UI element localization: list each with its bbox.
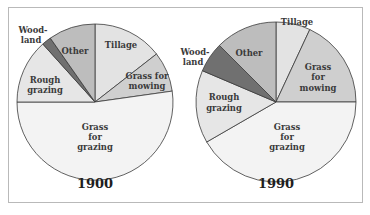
label-grazing-1900-l2: for xyxy=(88,132,102,142)
label-woodland-1900-l2: land xyxy=(21,35,42,45)
label-woodland-1990-l1: Wood- xyxy=(179,47,210,57)
label-tillage-1990: Tillage xyxy=(281,17,313,27)
pie-1900 xyxy=(17,24,173,180)
label-other-1990: Other xyxy=(236,48,264,58)
label-grazing-1990-l2: for xyxy=(280,132,294,142)
label-mowing-1900-l2: mowing xyxy=(129,81,166,91)
label-grazing-1990-l1: Grass xyxy=(274,122,301,132)
label-grazing-1900-l3: grazing xyxy=(77,142,113,152)
label-rough-1990-l2: grazing xyxy=(206,103,242,113)
label-rough-1900-l1: Rough xyxy=(30,75,61,85)
label-grazing-1990-l3: grazing xyxy=(269,142,305,152)
label-mowing-1990-l2: for xyxy=(311,72,325,82)
label-woodland-1900-l1: Wood- xyxy=(17,25,48,35)
label-grazing-1900-l1: Grass xyxy=(82,122,109,132)
label-mowing-1900-l1: Grass for xyxy=(126,71,170,81)
label-rough-1990-l1: Rough xyxy=(209,92,240,102)
label-rough-1900-l2: grazing xyxy=(27,85,63,95)
year-label-1900: 1900 xyxy=(77,176,113,191)
figure-caption-cutoff xyxy=(8,210,363,215)
label-tillage-1900: Tillage xyxy=(105,40,137,50)
pie-charts: Tillage Grass for mowing Grass for grazi… xyxy=(0,0,370,215)
label-woodland-1990-l2: land xyxy=(183,57,204,67)
label-mowing-1990-l3: mowing xyxy=(300,83,337,93)
year-label-1990: 1990 xyxy=(258,176,294,191)
pie-1990 xyxy=(196,22,356,182)
label-other-1900: Other xyxy=(62,46,90,56)
label-mowing-1990-l1: Grass xyxy=(305,62,332,72)
